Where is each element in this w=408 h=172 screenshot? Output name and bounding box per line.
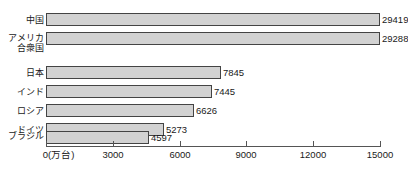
x-axis-tick-0 — [46, 141, 47, 147]
bar-value-russia: 6626 — [196, 105, 217, 116]
bar-india — [46, 85, 212, 98]
category-label-russia: ロシア — [0, 106, 44, 116]
bar-usa — [46, 32, 380, 45]
bar-value-japan: 7845 — [223, 67, 244, 78]
category-label-india: インド — [0, 87, 44, 97]
bar-value-usa: 29288 — [382, 33, 408, 44]
bar-china — [46, 13, 380, 26]
bar-russia — [46, 104, 194, 117]
x-axis-label-3000: 3000 — [102, 149, 123, 160]
category-label-brazil: ブラジル — [0, 131, 44, 141]
x-axis-label-9000: 9000 — [235, 149, 256, 160]
x-axis-label-15000: 15000 — [367, 149, 393, 160]
bar-brazil — [46, 131, 149, 144]
x-axis-tick-9000 — [246, 141, 247, 147]
x-axis-tick-15000 — [380, 141, 381, 147]
x-axis-label-0: 0(万台) — [43, 149, 75, 160]
bar-value-china: 29419 — [382, 14, 408, 25]
x-axis-line — [46, 146, 380, 147]
x-axis-label-12000: 12000 — [300, 149, 326, 160]
x-axis-tick-12000 — [313, 141, 314, 147]
x-axis-label-6000: 6000 — [169, 149, 190, 160]
category-label-japan: 日本 — [0, 68, 44, 78]
category-label-china: 中国 — [0, 15, 44, 25]
category-label-usa: アメリカ 合衆国 — [0, 33, 44, 53]
x-axis-tick-3000 — [113, 141, 114, 147]
bar-japan — [46, 66, 221, 79]
bar-value-brazil: 4597 — [151, 132, 172, 143]
x-axis-tick-6000 — [180, 141, 181, 147]
bar-value-india: 7445 — [214, 86, 235, 97]
